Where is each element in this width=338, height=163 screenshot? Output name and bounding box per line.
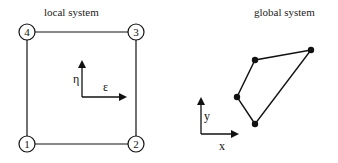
global-node-1	[252, 121, 258, 127]
node-3: 3	[128, 24, 144, 40]
node-label: 4	[24, 26, 30, 38]
node-label: 2	[133, 138, 139, 150]
global-node-4	[308, 47, 314, 53]
epsilon-label: ε	[103, 80, 108, 94]
global-axes: y x	[201, 99, 237, 153]
node-4: 4	[19, 24, 35, 40]
global-system: global system y x	[201, 6, 315, 153]
node-2: 2	[128, 136, 144, 152]
node-label: 1	[24, 138, 30, 150]
global-system-title: global system	[254, 6, 315, 18]
local-system: local system 1 2 3 4	[19, 6, 144, 152]
y-label: y	[204, 109, 210, 123]
eta-label: η	[73, 72, 79, 86]
node-1: 1	[19, 136, 35, 152]
node-label: 3	[133, 26, 139, 38]
local-system-title: local system	[44, 6, 99, 18]
global-element-outline	[237, 50, 311, 124]
diagram-svg: local system 1 2 3 4	[0, 0, 338, 163]
global-node-2	[234, 94, 240, 100]
local-axes: η ε	[73, 62, 125, 97]
global-node-3	[252, 57, 258, 63]
diagram-canvas: local system 1 2 3 4	[0, 0, 338, 163]
x-label: x	[219, 139, 225, 153]
